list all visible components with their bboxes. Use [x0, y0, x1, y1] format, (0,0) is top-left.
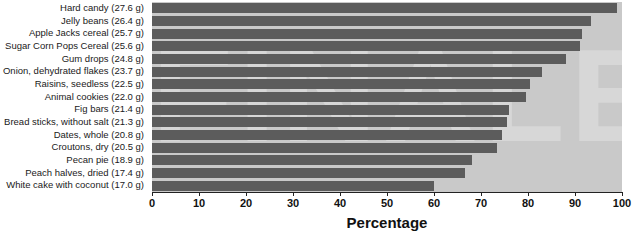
category-label: Apple Jacks cereal (25.7 g) — [29, 28, 144, 38]
bar-row — [152, 117, 622, 127]
category-label-column: Hard candy (27.6 g)Jelly beans (26.4 g)A… — [0, 0, 148, 192]
plot-area: FINALE — [152, 2, 622, 192]
bar — [152, 105, 509, 115]
bar-row — [152, 130, 622, 140]
x-axis-tick-label: 70 — [475, 197, 487, 209]
x-axis-title: Percentage — [152, 214, 622, 231]
category-label: Dates, whole (20.8 g) — [54, 130, 144, 140]
bar — [152, 130, 502, 140]
bar-row — [152, 105, 622, 115]
x-axis-tick — [340, 192, 341, 196]
bar — [152, 3, 617, 13]
bar — [152, 67, 542, 77]
x-axis-tick — [152, 192, 153, 196]
x-axis-tick — [387, 192, 388, 196]
x-axis-tick — [199, 192, 200, 196]
x-axis-tick — [293, 192, 294, 196]
bar-row — [152, 3, 622, 13]
category-label: Raisins, seedless (22.5 g) — [35, 79, 144, 89]
x-axis-tick-label: 60 — [428, 197, 440, 209]
x-axis-tick-label: 40 — [334, 197, 346, 209]
bar — [152, 117, 507, 127]
bar — [152, 79, 530, 89]
category-label: Croutons, dry (20.5 g) — [52, 142, 144, 152]
x-axis-tick — [246, 192, 247, 196]
x-axis-tick-label: 10 — [193, 197, 205, 209]
bar-row — [152, 168, 622, 178]
x-axis-tick — [528, 192, 529, 196]
x-axis-tick-label: 30 — [287, 197, 299, 209]
category-label: Onion, dehydrated flakes (23.7 g) — [3, 66, 144, 76]
bar-row — [152, 155, 622, 165]
bar — [152, 29, 582, 39]
horizontal-bar-chart: Hard candy (27.6 g)Jelly beans (26.4 g)A… — [0, 0, 637, 239]
bar-row — [152, 54, 622, 64]
category-label: Peach halves, dried (17.4 g) — [25, 168, 144, 178]
category-label: Hard candy (27.6 g) — [60, 3, 144, 13]
x-axis-tick — [622, 192, 623, 196]
bar-row — [152, 92, 622, 102]
x-axis-tick-label: 100 — [613, 197, 631, 209]
category-label: Gum drops (24.8 g) — [62, 54, 144, 64]
bar-row — [152, 41, 622, 51]
bar-row — [152, 29, 622, 39]
bar — [152, 41, 580, 51]
x-axis-tick — [434, 192, 435, 196]
category-label: Pecan pie (18.9 g) — [66, 155, 144, 165]
bar-row — [152, 143, 622, 153]
category-label: Jelly beans (26.4 g) — [61, 16, 144, 26]
bar-row — [152, 67, 622, 77]
category-label: White cake with coconut (17.0 g) — [6, 180, 144, 190]
bar — [152, 168, 465, 178]
x-axis-tick-label: 50 — [381, 197, 393, 209]
bar — [152, 92, 526, 102]
x-axis-tick-label: 80 — [522, 197, 534, 209]
bar-row — [152, 16, 622, 26]
x-axis-tick-label: 90 — [569, 197, 581, 209]
category-label: Sugar Corn Pops Cereal (25.6 g) — [5, 41, 144, 51]
bar-row — [152, 79, 622, 89]
bar — [152, 143, 497, 153]
bar — [152, 16, 591, 26]
bar — [152, 155, 472, 165]
x-axis-tick-label: 0 — [149, 197, 155, 209]
category-label: Fig bars (21.4 g) — [74, 104, 144, 114]
x-axis-tick-label: 20 — [240, 197, 252, 209]
bar — [152, 181, 434, 191]
x-axis-tick — [575, 192, 576, 196]
x-axis-tick — [481, 192, 482, 196]
category-label: Bread sticks, without salt (21.3 g) — [4, 117, 144, 127]
category-label: Animal cookies (22.0 g) — [45, 92, 144, 102]
bar — [152, 54, 566, 64]
bar-row — [152, 181, 622, 191]
